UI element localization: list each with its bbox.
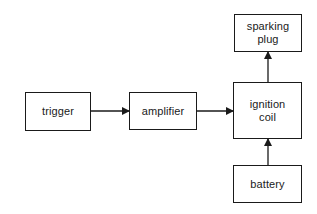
amplifier-label: amplifier <box>142 105 184 118</box>
sparking-plug-block: sparking plug <box>234 14 302 52</box>
ignition-coil-label: ignition coil <box>250 98 286 124</box>
amplifier-block: amplifier <box>129 92 197 130</box>
trigger-label: trigger <box>42 105 74 118</box>
battery-label: battery <box>250 178 284 191</box>
trigger-block: trigger <box>25 92 91 131</box>
sparking-plug-label: sparking plug <box>247 20 289 46</box>
battery-block: battery <box>233 165 302 203</box>
ignition-coil-block: ignition coil <box>233 82 302 139</box>
